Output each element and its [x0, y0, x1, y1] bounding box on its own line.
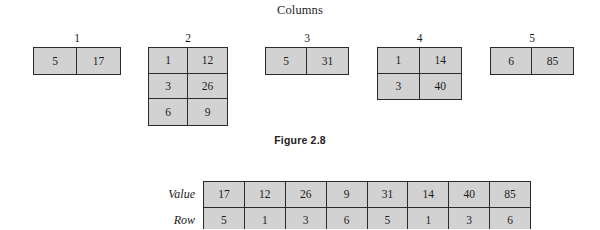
column-block-row: 340 — [378, 74, 461, 100]
table-cell: 14 — [408, 182, 449, 207]
table-cell: 6 — [327, 208, 368, 230]
column-block: 114340 — [377, 47, 462, 100]
table-row-label: Value — [168, 182, 204, 208]
value-row-table: Value171226931144085Row51365136 — [203, 181, 531, 229]
table-cell: 85 — [490, 182, 530, 207]
table-cell: 5 — [368, 208, 409, 230]
column-number-label: 5 — [490, 32, 574, 44]
column-number-label: 1 — [33, 32, 121, 44]
table-cell: 17 — [204, 182, 245, 207]
column-block-row: 685 — [491, 48, 573, 74]
table-cell: 1 — [408, 208, 449, 230]
table-cell: 40 — [449, 182, 490, 207]
row-index-cell: 6 — [491, 48, 532, 74]
value-cell: 40 — [420, 74, 462, 100]
value-cell: 26 — [188, 74, 227, 99]
column-block: 11232669 — [148, 47, 228, 126]
table-row-label: Row — [174, 208, 204, 230]
column-block-row: 112 — [149, 48, 227, 74]
table-cell: 5 — [204, 208, 245, 230]
table-cell: 6 — [490, 208, 530, 230]
row-index-cell: 1 — [378, 48, 420, 73]
table-cell: 12 — [245, 182, 286, 207]
row-index-cell: 3 — [149, 74, 188, 99]
table-row: Value171226931144085 — [204, 182, 530, 208]
column-block: 685 — [490, 47, 574, 75]
value-cell: 17 — [77, 48, 120, 74]
column-block-row: 517 — [34, 48, 120, 74]
table-cell: 31 — [368, 182, 409, 207]
column-number-label: 3 — [265, 32, 349, 44]
columns-heading: Columns — [0, 3, 600, 18]
column-number-label: 4 — [377, 32, 462, 44]
table-row: Row51365136 — [204, 208, 530, 230]
value-cell: 9 — [188, 99, 227, 125]
table-cell: 3 — [286, 208, 327, 230]
column-block-row: 326 — [149, 74, 227, 100]
column-block-row: 531 — [266, 48, 348, 74]
column-block: 517 — [33, 47, 121, 75]
value-cell: 14 — [420, 48, 462, 73]
row-index-cell: 5 — [266, 48, 307, 74]
table-cell: 26 — [286, 182, 327, 207]
value-cell: 12 — [188, 48, 227, 73]
row-index-cell: 6 — [149, 99, 188, 125]
row-index-cell: 1 — [149, 48, 188, 73]
column-block-row: 69 — [149, 99, 227, 125]
figure-caption: Figure 2.8 — [0, 134, 600, 146]
table-cell: 9 — [327, 182, 368, 207]
row-index-cell: 5 — [34, 48, 77, 74]
column-number-label: 2 — [148, 32, 228, 44]
value-cell: 31 — [307, 48, 348, 74]
row-index-cell: 3 — [378, 74, 420, 100]
column-block-row: 114 — [378, 48, 461, 74]
value-cell: 85 — [532, 48, 573, 74]
table-cell: 1 — [245, 208, 286, 230]
column-block: 531 — [265, 47, 349, 75]
table-cell: 3 — [449, 208, 490, 230]
